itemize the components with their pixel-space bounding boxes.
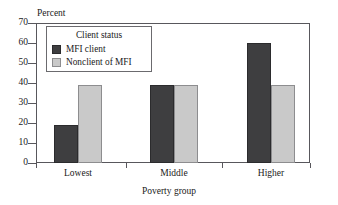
y-axis-tick <box>28 143 36 144</box>
y-axis-tick-label-wrap: 10 <box>0 138 28 148</box>
y-axis-tick-label-wrap: 50 <box>0 58 28 68</box>
bar <box>54 125 78 163</box>
y-axis-tick <box>28 23 36 24</box>
bar-chart-figure: Percent 706050403020100 LowestMiddleHigh… <box>0 0 338 205</box>
legend-item-mfi-client: MFI client <box>52 43 106 56</box>
y-axis-tick-label-wrap: 40 <box>0 78 28 88</box>
y-axis-tick-label-wrap: 30 <box>0 98 28 108</box>
y-axis-unit-label: Percent <box>37 8 66 19</box>
y-axis-tick-label-wrap: 0 <box>0 158 28 168</box>
y-axis-tick-label: 50 <box>2 58 28 68</box>
y-axis-tick <box>28 83 36 84</box>
bar <box>247 43 271 163</box>
legend-item-nonclient-of-mfi: Nonclient of MFI <box>52 56 132 69</box>
x-axis-group-label: Middle <box>134 168 214 179</box>
y-axis-tick-label-wrap: 60 <box>0 38 28 48</box>
x-axis-tick <box>222 163 223 168</box>
legend-swatch-icon-light <box>52 58 61 67</box>
bar <box>174 85 198 163</box>
y-axis-tick-label: 70 <box>2 18 28 28</box>
x-axis-group-label: Higher <box>231 168 311 179</box>
y-axis-tick-label: 30 <box>2 98 28 108</box>
y-axis-tick-label-wrap: 70 <box>0 18 28 28</box>
y-axis-tick-label: 0 <box>2 158 28 168</box>
y-axis-tick-label: 20 <box>2 118 28 128</box>
y-axis-tick-label: 40 <box>2 78 28 88</box>
y-axis-tick-label-wrap: 20 <box>0 118 28 128</box>
x-axis-tick <box>36 163 37 168</box>
legend-title: Client status <box>47 30 151 41</box>
y-axis-tick <box>28 103 36 104</box>
legend: Client status MFI client Nonclient of MF… <box>46 26 152 72</box>
y-axis-tick <box>28 163 36 164</box>
y-axis-tick <box>28 63 36 64</box>
y-axis-tick <box>28 123 36 124</box>
y-axis-tick-label: 60 <box>2 38 28 48</box>
bar <box>150 85 174 163</box>
y-axis-tick-label: 10 <box>2 138 28 148</box>
x-axis-title: Poverty group <box>0 186 338 197</box>
legend-item-label: MFI client <box>66 44 106 55</box>
legend-swatch-icon-dark <box>52 45 61 54</box>
y-axis-tick <box>28 43 36 44</box>
bar <box>271 85 295 163</box>
bar <box>78 85 102 163</box>
x-axis-tick <box>126 163 127 168</box>
legend-item-label: Nonclient of MFI <box>66 57 132 68</box>
x-axis-group-label: Lowest <box>38 168 118 179</box>
